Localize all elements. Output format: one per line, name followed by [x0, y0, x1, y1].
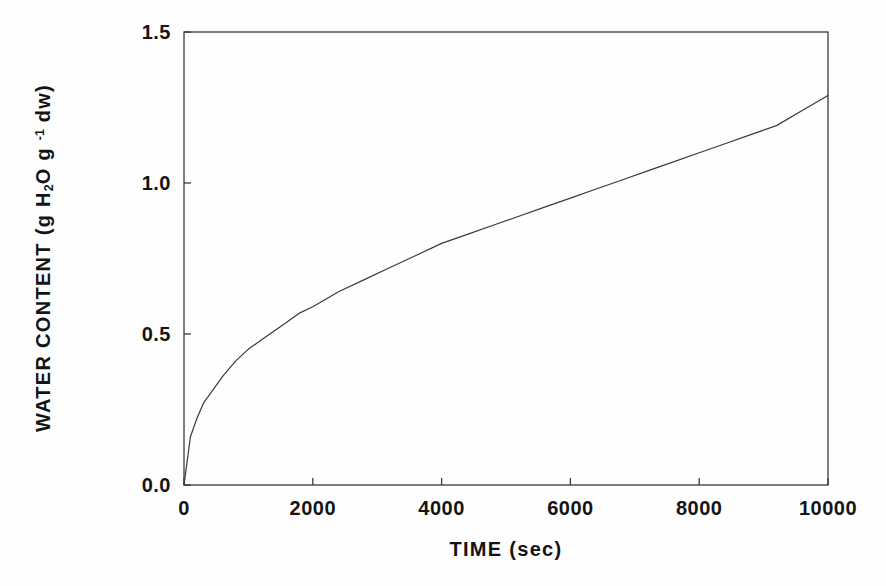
data-curve [184, 95, 828, 485]
y-axis-title: WATER CONTENT (g H2O g -1 dw) [32, 84, 55, 432]
x-tick-label: 10000 [799, 497, 857, 520]
y-tick-label: 0.5 [142, 323, 171, 346]
x-tick-label: 6000 [547, 497, 594, 520]
plot-frame [184, 32, 828, 485]
y-tick-label: 0.0 [142, 474, 171, 497]
y-axis-title-prefix: WATER CONTENT (g H [32, 191, 54, 432]
x-tick-label: 2000 [290, 497, 337, 520]
y-axis-title-suffix: dw) [32, 84, 54, 129]
x-tick-label: 0 [178, 497, 190, 520]
axis-ticks [184, 32, 828, 485]
y-axis-title-mid: O g [32, 140, 54, 184]
y-tick-label: 1.0 [142, 172, 171, 195]
figure-container: 0.00.51.01.5 0200040006000800010000 TIME… [0, 0, 886, 586]
x-axis-title: TIME (sec) [449, 538, 562, 561]
y-tick-label: 1.5 [142, 21, 171, 44]
y-axis-title-superscript: -1 [33, 129, 47, 140]
y-axis-title-subscript: 2 [42, 184, 56, 191]
x-tick-label: 8000 [676, 497, 723, 520]
x-tick-label: 4000 [418, 497, 465, 520]
